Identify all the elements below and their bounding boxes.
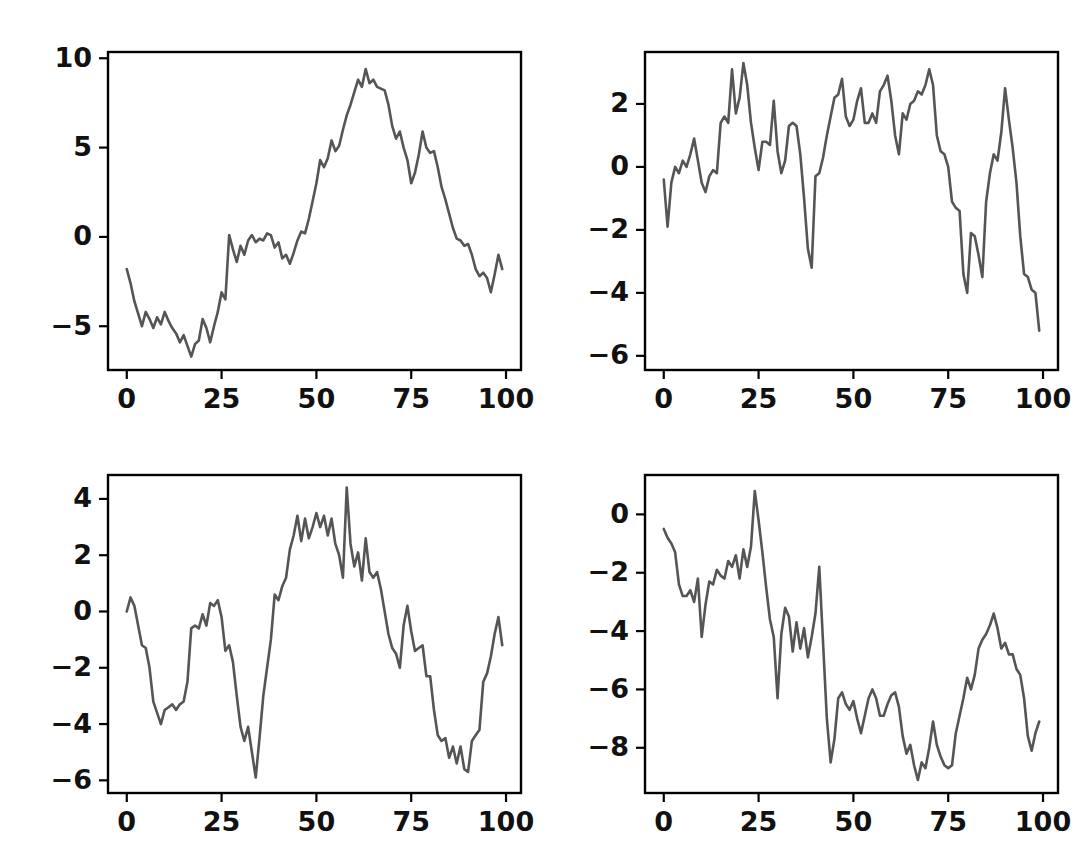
y-tick-label: −2 (51, 651, 92, 682)
subplot-bottom-right: −8−6−4−200255075100 (537, 423, 1074, 846)
y-tick-label: 0 (73, 220, 92, 251)
y-tick-label: −4 (588, 615, 629, 646)
y-tick-label: 5 (73, 131, 92, 162)
x-tick-label: 100 (478, 383, 534, 414)
x-tick-label: 75 (392, 383, 430, 414)
y-tick-label: 4 (73, 482, 92, 513)
y-tick-label: 0 (610, 150, 629, 181)
x-tick-label: 25 (203, 383, 241, 414)
y-tick-label: −2 (588, 213, 629, 244)
x-tick-label: 75 (392, 806, 430, 837)
x-tick-label: 100 (1015, 383, 1071, 414)
x-tick-label: 50 (835, 383, 873, 414)
y-tick-label: −6 (51, 764, 92, 795)
x-tick-label: 25 (740, 383, 778, 414)
y-tick-label: −5 (51, 310, 92, 341)
y-tick-label: −8 (588, 731, 629, 762)
chart-svg: −505100255075100 (0, 0, 537, 423)
y-tick-label: 10 (54, 42, 92, 73)
plot-area-background (645, 475, 1058, 793)
y-tick-label: −4 (51, 708, 92, 739)
x-tick-label: 100 (478, 806, 534, 837)
x-tick-label: 50 (835, 806, 873, 837)
y-tick-label: −6 (588, 673, 629, 704)
y-tick-label: 0 (73, 595, 92, 626)
chart-svg: −6−4−2020255075100 (537, 0, 1074, 423)
y-tick-label: 2 (73, 539, 92, 570)
plot-area-background (645, 52, 1058, 370)
x-tick-label: 0 (654, 383, 673, 414)
x-tick-label: 50 (298, 383, 336, 414)
y-tick-label: −2 (588, 556, 629, 587)
x-tick-label: 50 (298, 806, 336, 837)
x-tick-label: 0 (117, 383, 136, 414)
y-tick-label: −6 (588, 339, 629, 370)
chart-svg: −8−6−4−200255075100 (537, 423, 1074, 846)
x-tick-label: 100 (1015, 806, 1071, 837)
x-tick-label: 0 (117, 806, 136, 837)
x-tick-label: 75 (929, 383, 967, 414)
x-tick-label: 25 (203, 806, 241, 837)
y-tick-label: −4 (588, 276, 629, 307)
subplot-top-left: −505100255075100 (0, 0, 537, 423)
x-tick-label: 0 (654, 806, 673, 837)
subplot-bottom-left: −6−4−20240255075100 (0, 423, 537, 846)
chart-svg: −6−4−20240255075100 (0, 423, 537, 846)
x-tick-label: 25 (740, 806, 778, 837)
figure-canvas: −505100255075100 −6−4−2020255075100 −6−4… (0, 0, 1075, 847)
subplot-top-right: −6−4−2020255075100 (537, 0, 1074, 423)
y-tick-label: 0 (610, 498, 629, 529)
y-tick-label: 2 (610, 87, 629, 118)
x-tick-label: 75 (929, 806, 967, 837)
